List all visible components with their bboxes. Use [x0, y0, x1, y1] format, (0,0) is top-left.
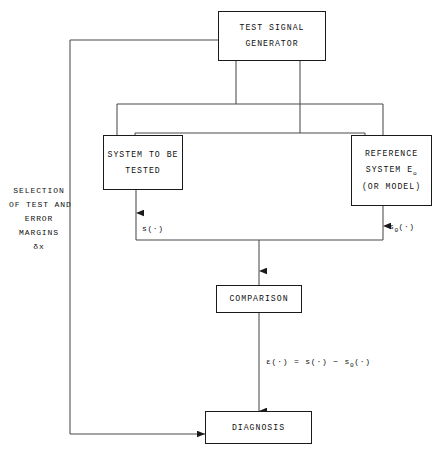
signal-label-s: s(·) — [142, 224, 164, 233]
box-test-signal-generator[interactable]: TEST SIGNAL GENERATOR — [218, 11, 326, 61]
reference-system-label: SYSTEM E — [366, 165, 413, 174]
signal-s0-suffix: (·) — [399, 222, 415, 231]
reference-line-3: (OR MODEL) — [362, 179, 421, 195]
box-comparison[interactable]: COMPARISON — [216, 285, 302, 313]
flow-diagram-canvas: TEST SIGNAL GENERATOR SYSTEM TO BE TESTE… — [0, 0, 438, 462]
selection-line-3: ERROR — [9, 212, 69, 226]
comparison-label: COMPARISON — [229, 291, 288, 307]
equation-tail: (·) — [354, 357, 371, 366]
generator-line-1: TEST SIGNAL — [239, 20, 304, 36]
selection-line-5: δx — [9, 240, 69, 254]
signal-label-s0: s0(·) — [389, 222, 415, 234]
diagnosis-label: DIAGNOSIS — [232, 420, 285, 436]
box-system-to-be-tested[interactable]: SYSTEM TO BE TESTED — [103, 135, 183, 190]
reference-system-subscript: o — [413, 169, 417, 176]
reference-line-2: SYSTEM Eo — [366, 162, 417, 180]
generator-line-2: GENERATOR — [245, 36, 298, 52]
sut-line-2: TESTED — [125, 163, 160, 179]
equation-lhs: ε(·) = s(·) − s — [266, 357, 350, 366]
sut-line-1: SYSTEM TO BE — [108, 147, 179, 163]
error-equation-label: ε(·) = s(·) − s0(·) — [266, 357, 371, 369]
selection-line-4: MARGINS — [9, 226, 69, 240]
selection-annotation: SELECTION OF TEST AND ERROR MARGINS δx — [9, 184, 69, 254]
reference-line-1: REFERENCE — [365, 146, 418, 162]
box-diagnosis[interactable]: DIAGNOSIS — [205, 411, 312, 444]
box-reference-system[interactable]: REFERENCE SYSTEM Eo (OR MODEL) — [351, 135, 432, 206]
selection-line-1: SELECTION — [9, 184, 69, 198]
selection-line-2: OF TEST AND — [9, 198, 69, 212]
